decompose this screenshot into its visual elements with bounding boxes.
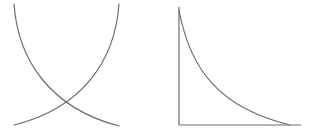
decay-curve-diagram [179,7,301,125]
figure-canvas [0,0,314,134]
rising-curve [14,4,119,125]
falling-curve [14,4,119,126]
decay-curve [179,10,290,125]
crossing-curves-diagram [14,4,119,126]
